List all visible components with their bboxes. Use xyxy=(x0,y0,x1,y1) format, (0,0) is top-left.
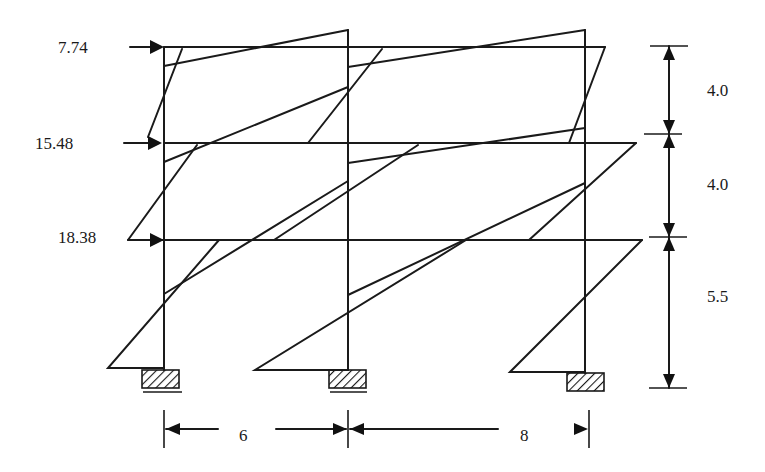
moment-diagram xyxy=(108,30,642,372)
frame-beams xyxy=(128,47,642,240)
height-dimensions: 4.0 4.0 5.5 xyxy=(644,46,728,388)
moment-roof-span2 xyxy=(348,30,585,67)
dim-arrow-icon xyxy=(350,423,364,435)
dim-arrow-icon xyxy=(663,223,675,237)
moment-col2-storey2 xyxy=(274,145,418,240)
load-label-second: 15.48 xyxy=(35,134,73,153)
moment-col2-storey1 xyxy=(255,240,466,370)
moment-col3-storey2 xyxy=(529,143,636,240)
load-arrow-icon xyxy=(130,233,164,247)
moment-col3-storey1 xyxy=(510,240,642,372)
moment-floor2-span2 xyxy=(348,128,585,163)
fixed-support-icon xyxy=(142,370,182,392)
frame-columns xyxy=(164,30,585,373)
bay-width-2: 8 xyxy=(520,426,529,445)
load-arrow-icon xyxy=(130,40,164,54)
dim-arrow-icon xyxy=(663,134,675,148)
moment-col2-storey3 xyxy=(308,49,382,143)
moment-col1-storey2 xyxy=(128,145,197,240)
bay-width-1: 6 xyxy=(239,426,248,445)
bay-dimensions: 6 8 xyxy=(164,410,589,448)
dim-arrow-icon xyxy=(663,237,675,251)
moment-floor1-span1 xyxy=(164,181,348,294)
dim-arrow-icon xyxy=(663,374,675,388)
frame-diagram: 7.74 15.48 18.38 4.0 4.0 5.5 6 8 xyxy=(0,0,765,472)
load-arrow-icon xyxy=(124,136,162,150)
dim-arrow-icon xyxy=(574,423,588,435)
dim-arrow-icon xyxy=(166,423,180,435)
fixed-support-icon xyxy=(329,370,367,392)
dim-arrow-icon xyxy=(663,46,675,60)
dim-arrow-icon xyxy=(333,423,347,435)
fixed-support-icon xyxy=(567,373,604,391)
load-label-roof: 7.74 xyxy=(58,38,88,57)
dim-arrow-icon xyxy=(663,120,675,134)
load-label-first: 18.38 xyxy=(58,228,96,247)
storey-height-2: 4.0 xyxy=(707,175,728,194)
storey-height-1: 5.5 xyxy=(707,287,728,306)
supports xyxy=(142,370,604,392)
storey-height-3: 4.0 xyxy=(707,81,728,100)
